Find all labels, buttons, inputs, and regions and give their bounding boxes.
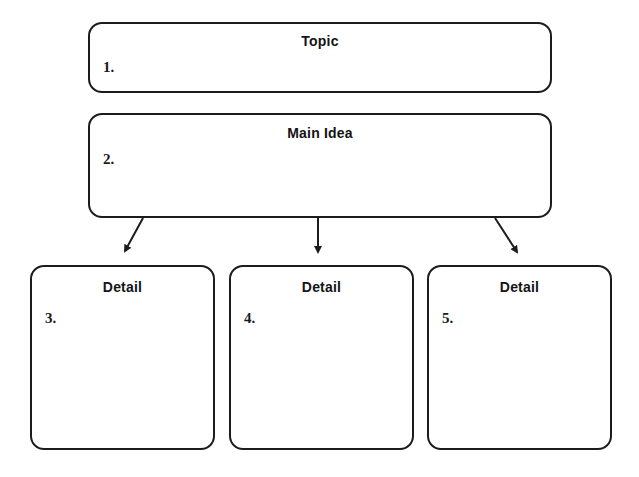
main-idea-number: 2. [103, 151, 114, 168]
detail-number: 3. [45, 310, 56, 327]
detail-box-1: Detail 3. [30, 265, 215, 450]
detail-number: 5. [442, 310, 453, 327]
detail-number: 4. [244, 310, 255, 327]
detail-title: Detail [231, 279, 412, 295]
arrow-to-detail-3 [495, 218, 517, 252]
main-idea-box: Main Idea 2. [88, 113, 552, 218]
topic-title: Topic [90, 33, 550, 49]
detail-title: Detail [429, 279, 610, 295]
topic-box: Topic 1. [88, 22, 552, 93]
main-idea-title: Main Idea [90, 125, 550, 141]
detail-box-2: Detail 4. [229, 265, 414, 450]
detail-title: Detail [32, 279, 213, 295]
detail-box-3: Detail 5. [427, 265, 612, 450]
topic-number: 1. [103, 59, 114, 76]
arrow-to-detail-1 [125, 218, 143, 251]
